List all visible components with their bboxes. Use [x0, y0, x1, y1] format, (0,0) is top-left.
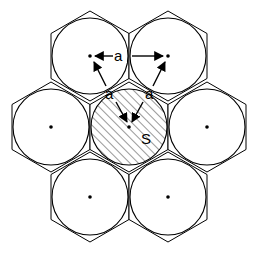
label-a-top: a: [114, 47, 123, 64]
center-dot-middle-right: [205, 125, 209, 129]
center-dot-bottom-right: [166, 195, 170, 199]
center-dot-center: [127, 125, 131, 129]
center-dot-bottom-left: [88, 195, 92, 199]
label-a-left: a: [105, 85, 114, 102]
center-dot-middle-left: [49, 125, 53, 129]
center-dot-top-left: [88, 54, 92, 58]
hex-packing-diagram: a a a S: [0, 0, 257, 253]
center-dot-top-right: [166, 54, 170, 58]
label-a-right: a: [145, 85, 154, 102]
label-s: S: [141, 130, 151, 147]
diagram-canvas: a a a S: [0, 0, 257, 253]
